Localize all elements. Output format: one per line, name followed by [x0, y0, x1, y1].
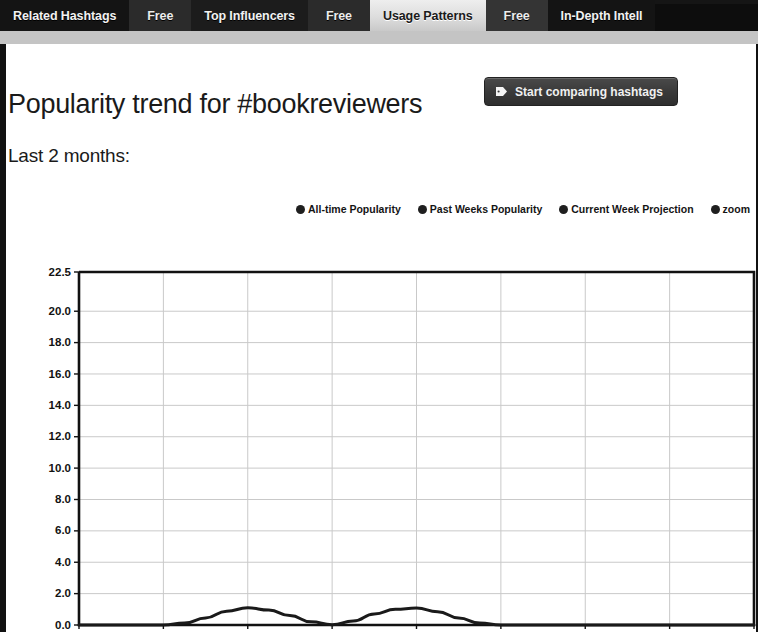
svg-text:8.0: 8.0 [55, 493, 71, 505]
tab-related-hashtags[interactable]: Related Hashtags [0, 0, 129, 31]
chart-canvas: 0.02.04.06.08.010.012.014.016.018.020.02… [6, 220, 758, 630]
legend-item-zoom[interactable]: zoom [711, 203, 750, 215]
legend-dot-icon [296, 205, 305, 214]
svg-text:18.0: 18.0 [49, 336, 71, 348]
start-comparing-hashtags-button[interactable]: Start comparing hashtags [484, 77, 678, 106]
legend-item-all-time-popularity[interactable]: All-time Popularity [296, 203, 401, 215]
legend-label: Past Weeks Popularity [430, 203, 542, 215]
page-root: Related Hashtags Free Top Influencers Fr… [0, 0, 758, 632]
tab-label: Free [147, 9, 173, 23]
legend-dot-icon [711, 205, 720, 214]
tab-free-1[interactable]: Free [129, 0, 191, 31]
svg-text:22.5: 22.5 [49, 266, 72, 278]
svg-text:0.0: 0.0 [55, 619, 71, 630]
compare-button-label: Start comparing hashtags [515, 85, 663, 99]
tab-label: In-Depth Intell [561, 9, 643, 23]
legend-dot-icon [418, 205, 427, 214]
tab-free-2[interactable]: Free [308, 0, 370, 31]
legend-label: zoom [723, 203, 750, 215]
section-subtitle: Last 2 months: [8, 145, 130, 167]
legend-label: Current Week Projection [571, 203, 693, 215]
svg-text:4.0: 4.0 [55, 556, 71, 568]
svg-text:16.0: 16.0 [49, 368, 71, 380]
tab-bar-shadow-strip [0, 31, 758, 44]
tab-label: Related Hashtags [13, 9, 116, 23]
svg-text:6.0: 6.0 [55, 524, 71, 536]
svg-text:10.0: 10.0 [49, 462, 71, 474]
svg-text:12.0: 12.0 [49, 430, 71, 442]
chart-legend: All-time Popularity Past Weeks Popularit… [6, 203, 754, 215]
page-title: Popularity trend for #bookreviewers [8, 89, 422, 120]
tab-label: Free [504, 9, 530, 23]
tab-label: Free [326, 9, 352, 23]
content-frame: Popularity trend for #bookreviewers Star… [0, 44, 758, 632]
svg-text:2.0: 2.0 [55, 587, 71, 599]
tab-top-influencers[interactable]: Top Influencers [191, 0, 308, 31]
popularity-trend-chart[interactable]: 0.02.04.06.08.010.012.014.016.018.020.02… [6, 220, 758, 630]
tag-icon [495, 86, 508, 97]
tab-free-3[interactable]: Free [486, 0, 548, 31]
tab-in-depth-intelligence[interactable]: In-Depth Intell [548, 0, 656, 31]
legend-item-past-weeks-popularity[interactable]: Past Weeks Popularity [418, 203, 542, 215]
legend-dot-icon [559, 205, 568, 214]
legend-item-current-week-projection[interactable]: Current Week Projection [559, 203, 693, 215]
top-tab-bar: Related Hashtags Free Top Influencers Fr… [0, 0, 758, 31]
legend-label: All-time Popularity [308, 203, 401, 215]
svg-text:14.0: 14.0 [49, 399, 71, 411]
tab-usage-patterns[interactable]: Usage Patterns [370, 0, 486, 31]
tab-label: Top Influencers [204, 9, 295, 23]
svg-text:20.0: 20.0 [49, 305, 71, 317]
tab-label: Usage Patterns [383, 9, 473, 23]
